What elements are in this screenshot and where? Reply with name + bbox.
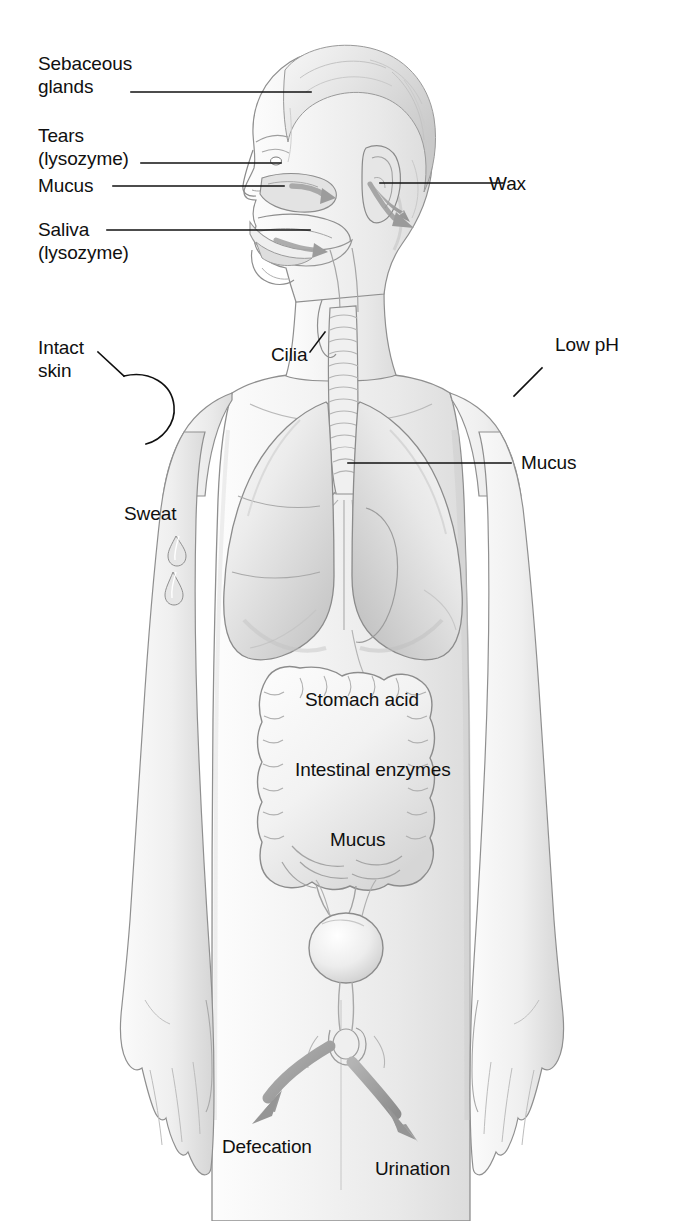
label-cilia: Cilia bbox=[271, 343, 307, 366]
label-intact-skin-line1: Intact bbox=[38, 337, 84, 358]
label-sebaceous-glands-line1: Sebaceous bbox=[38, 53, 132, 74]
label-sebaceous-glands: Sebaceousglands bbox=[38, 52, 132, 98]
head bbox=[243, 45, 436, 302]
leader-intact-skin-stem bbox=[98, 352, 124, 376]
label-saliva-line2: (lysozyme) bbox=[38, 242, 129, 263]
label-defecation: Defecation bbox=[222, 1135, 312, 1158]
label-tears-line1: Tears bbox=[38, 125, 84, 146]
leader-low-ph bbox=[514, 368, 542, 396]
leader-intact-skin-arc bbox=[124, 375, 174, 444]
label-urination: Urination bbox=[375, 1157, 450, 1180]
body-illustration bbox=[0, 0, 685, 1221]
label-intact-skin-line2: skin bbox=[38, 360, 71, 381]
label-low-ph: Low pH bbox=[555, 333, 619, 356]
label-saliva-line1: Saliva bbox=[38, 219, 89, 240]
label-intact-skin: Intactskin bbox=[38, 336, 84, 382]
label-tears: Tears(lysozyme) bbox=[38, 124, 129, 170]
label-sebaceous-glands-line2: glands bbox=[38, 76, 93, 97]
label-intestinal-enzymes: Intestinal enzymes bbox=[295, 758, 451, 781]
label-mucus-intestine: Mucus bbox=[330, 828, 385, 851]
label-saliva: Saliva(lysozyme) bbox=[38, 218, 129, 264]
label-wax: Wax bbox=[489, 172, 526, 195]
label-stomach-acid: Stomach acid bbox=[305, 688, 419, 711]
label-mucus-lungs: Mucus bbox=[521, 451, 576, 474]
bladder bbox=[309, 913, 383, 983]
anatomy-figure: Sebaceousglands Tears(lysozyme) Mucus Sa… bbox=[0, 0, 685, 1221]
label-sweat: Sweat bbox=[124, 502, 176, 525]
label-tears-line2: (lysozyme) bbox=[38, 148, 129, 169]
label-mucus-nose: Mucus bbox=[38, 174, 93, 197]
